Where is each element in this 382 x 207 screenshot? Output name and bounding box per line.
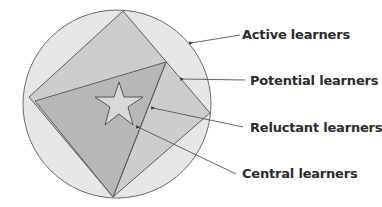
label-central-learners: Central learners — [242, 167, 357, 180]
label-potential-learners: Potential learners — [250, 74, 378, 87]
active-leader-line — [191, 35, 240, 43]
label-active-learners: Active learners — [242, 28, 350, 41]
label-reluctant-learners: Reluctant learners — [250, 121, 382, 134]
